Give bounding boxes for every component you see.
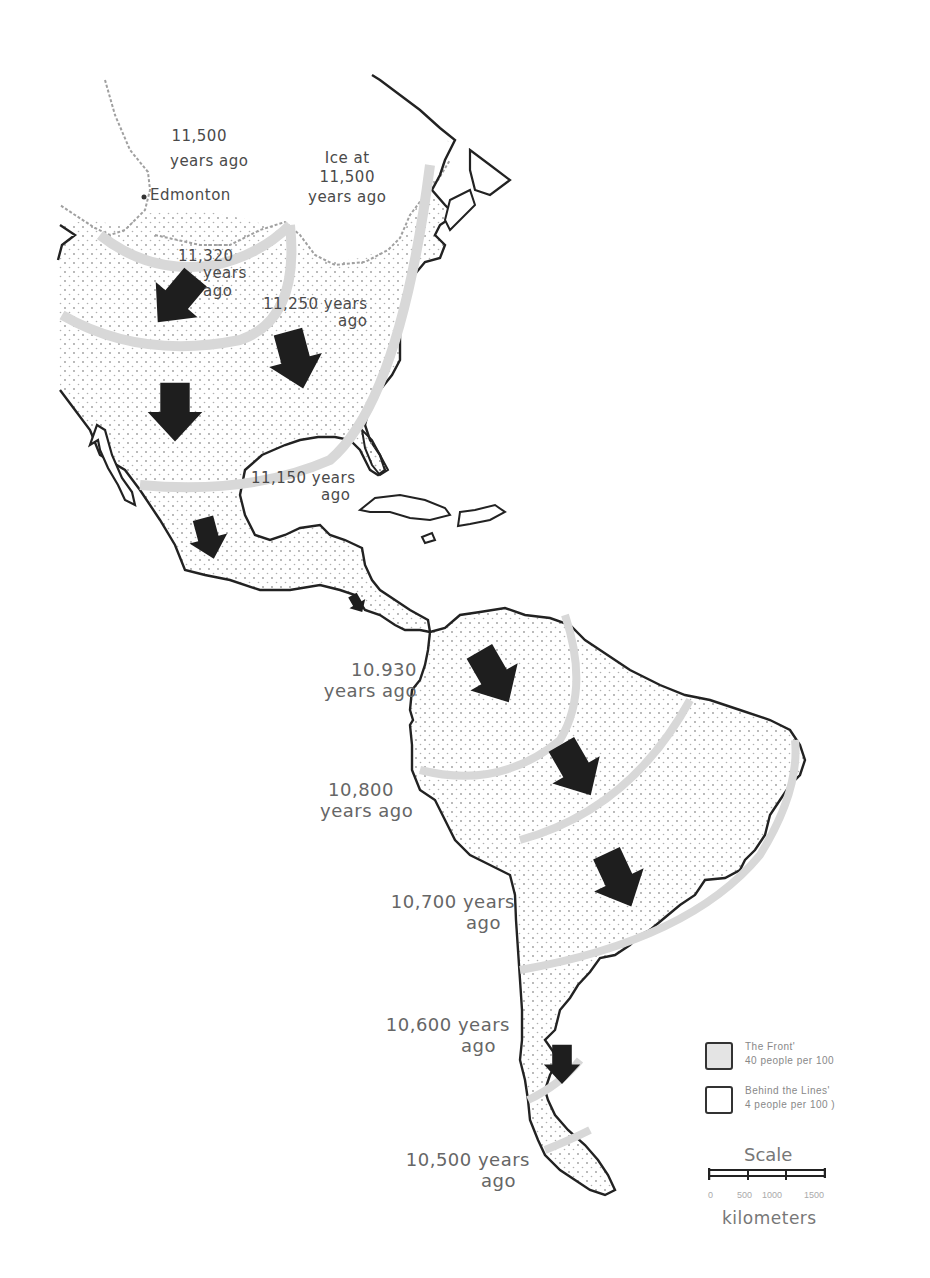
- label-line: years ago: [308, 189, 386, 206]
- label-line: 10,800: [328, 780, 413, 801]
- legend: The Front' 40 people per 100 Behind the …: [705, 1040, 905, 1128]
- legend-line: 4 people per 100 ): [745, 1098, 835, 1112]
- label-line: 10,700 years: [360, 892, 515, 913]
- place-name: Edmonton: [150, 186, 231, 204]
- legend-line: Behind the Lines': [745, 1084, 835, 1098]
- label-10800: 10,800 years ago: [320, 780, 413, 821]
- label-line: 11,500: [308, 169, 386, 186]
- scale-bar: [708, 1168, 826, 1180]
- hispaniola: [458, 505, 505, 526]
- label-line: years ago: [170, 153, 248, 170]
- legend-text: Behind the Lines' 4 people per 100 ): [745, 1084, 835, 1111]
- label-10700: 10,700 years ago: [360, 892, 515, 933]
- nova-scotia: [470, 150, 510, 195]
- label-10930: 10.930 years ago: [305, 660, 417, 701]
- label-line: Ice at: [308, 150, 386, 167]
- legend-text: The Front' 40 people per 100: [745, 1040, 834, 1067]
- label-line: 11,320: [178, 248, 247, 265]
- cuba: [360, 495, 450, 520]
- label-11320: 11,320 years ago: [178, 248, 247, 300]
- label-line: ago: [360, 1036, 496, 1057]
- scale-tick: 1000: [762, 1190, 782, 1200]
- florida: [362, 430, 388, 475]
- place-edmonton: Edmonton: [150, 187, 231, 204]
- label-ice-11500: Ice at 11,500 years ago: [308, 150, 386, 206]
- swatch-behind: [705, 1086, 733, 1114]
- label-line: years ago: [320, 801, 413, 822]
- newfoundland-hook: [445, 190, 475, 230]
- label-line: years ago: [305, 681, 417, 702]
- label-11150: 11,150 years ago: [251, 470, 356, 505]
- label-line: ago: [203, 283, 247, 300]
- edmonton-dot: [142, 195, 147, 200]
- label-line: 11,500: [150, 128, 248, 145]
- scale-tick: 1500: [804, 1190, 824, 1200]
- label-line: ago: [338, 313, 368, 330]
- label-10500: 10,500 years ago: [380, 1150, 530, 1191]
- scale-tick: 0: [708, 1190, 713, 1200]
- label-line: 10,600 years: [360, 1015, 510, 1036]
- label-line: ago: [360, 913, 501, 934]
- label-line: 11,250 years: [263, 296, 368, 313]
- scale-tick: 500: [737, 1190, 752, 1200]
- label-11500-west: 11,500 years ago: [160, 128, 248, 171]
- legend-item-front: The Front' 40 people per 100: [705, 1040, 905, 1078]
- label-11250: 11,250 years ago: [263, 296, 368, 331]
- label-10600: 10,600 years ago: [360, 1015, 510, 1056]
- label-line: 10,500 years: [380, 1150, 530, 1171]
- label-line: 11,150 years: [251, 470, 356, 487]
- swatch-front: [705, 1042, 733, 1070]
- scale-unit: kilometers: [722, 1208, 817, 1228]
- jamaica: [422, 533, 435, 543]
- scale-title: Scale: [744, 1144, 792, 1165]
- legend-item-behind: Behind the Lines' 4 people per 100 ): [705, 1084, 905, 1122]
- label-line: ago: [380, 1171, 516, 1192]
- legend-line: The Front': [745, 1040, 834, 1054]
- label-line: 10.930: [305, 660, 417, 681]
- label-line: ago: [321, 487, 356, 504]
- legend-line: 40 people per 100: [745, 1054, 834, 1068]
- label-line: years: [203, 265, 247, 282]
